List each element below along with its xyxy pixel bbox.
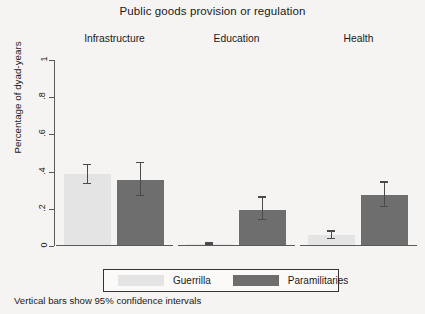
panel-health: Health — [300, 60, 417, 246]
y-tick-label: .8 — [20, 91, 46, 101]
errorbar-cap-bottom — [327, 238, 335, 239]
errorbar-cap-top — [380, 181, 388, 182]
errorbar-cap-bottom — [83, 183, 91, 184]
chart-legend: Guerrilla Paramilitaries — [103, 269, 339, 292]
panel-title-infrastructure: Infrastructure — [56, 33, 173, 44]
chart-title: Public goods provision or regulation — [0, 5, 425, 17]
panel-baseline — [178, 245, 295, 246]
errorbar-cap-top — [136, 162, 144, 163]
errorbar-infrastructure-paramilitaries — [140, 162, 141, 196]
y-tick-label: .2 — [20, 203, 46, 213]
legend-label-guerrilla: Guerrilla — [173, 275, 211, 286]
panel-education: Education — [178, 60, 295, 246]
legend-item-guerrilla: Guerrilla — [118, 275, 211, 286]
y-tick-mark — [49, 209, 54, 210]
y-tick-mark — [49, 246, 54, 247]
legend-label-paramilitaries: Paramilitaries — [288, 275, 349, 286]
dark-swatch-icon — [233, 275, 279, 286]
legend-item-paramilitaries: Paramilitaries — [233, 275, 349, 286]
panel-baseline — [300, 245, 417, 246]
y-tick-mark — [49, 60, 54, 61]
y-tick-label: .6 — [20, 128, 46, 138]
errorbar-cap-bottom — [136, 195, 144, 196]
y-tick-mark — [49, 172, 54, 173]
y-tick-label: 0 — [20, 240, 46, 250]
bar-infrastructure-guerrilla — [64, 174, 111, 245]
errorbar-cap-bottom — [380, 206, 388, 207]
panel-infrastructure: Infrastructure — [56, 60, 173, 246]
y-tick-mark — [49, 134, 54, 135]
errorbar-health-paramilitaries — [384, 181, 385, 207]
errorbar-cap-top — [327, 230, 335, 231]
panel-title-health: Health — [300, 33, 417, 44]
chart-figure: Public goods provision or regulation Per… — [0, 0, 425, 314]
panel-baseline — [56, 245, 173, 246]
errorbar-cap-top — [258, 196, 266, 197]
errorbar-cap-bottom — [258, 219, 266, 220]
light-swatch-icon — [118, 275, 164, 286]
errorbar-health-guerrilla — [331, 230, 332, 239]
y-axis-line — [54, 60, 55, 246]
panel-title-education: Education — [178, 33, 295, 44]
y-tick-mark — [49, 97, 54, 98]
errorbar-education-guerrilla — [209, 242, 210, 244]
errorbar-education-paramilitaries — [262, 196, 263, 220]
y-tick-label: .4 — [20, 166, 46, 176]
chart-footnote: Vertical bars show 95% confidence interv… — [14, 295, 201, 306]
errorbar-infrastructure-guerrilla — [87, 164, 88, 185]
errorbar-cap-top — [83, 164, 91, 165]
y-tick-label: 1 — [20, 54, 46, 64]
errorbar-cap-bottom — [205, 243, 213, 244]
